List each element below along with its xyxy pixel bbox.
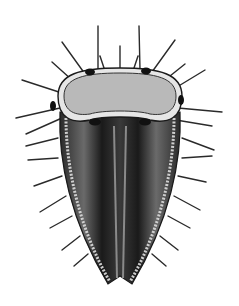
seed-illustration: [0, 0, 239, 306]
seed-cap: [64, 73, 176, 114]
seed-body: [60, 112, 180, 284]
illustration-canvas: [0, 0, 239, 306]
